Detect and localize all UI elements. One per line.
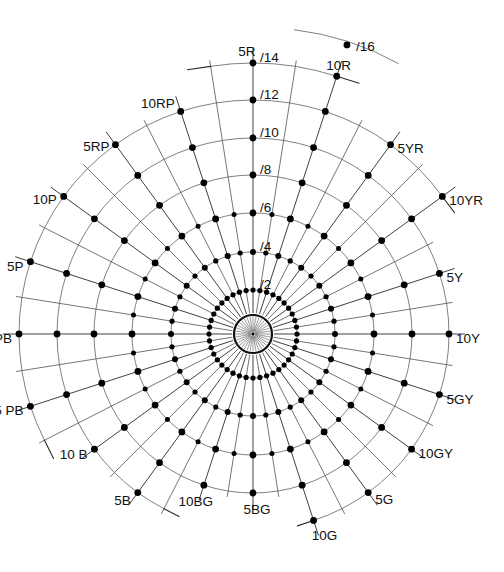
hue-label: 5 PB [0, 403, 23, 418]
chroma-dot [343, 202, 350, 209]
hue-labels-layer: 5R10R5YR10YR5Y10Y5GY10GY5G10G5BG10BG5B10… [0, 44, 483, 543]
chroma-dot [134, 172, 141, 179]
chroma-dot [436, 270, 443, 277]
chroma-arc-segment [211, 63, 253, 66]
hue-label: 10YR [449, 193, 483, 208]
chroma-dot [331, 319, 336, 324]
chroma-dot [365, 293, 372, 300]
chroma-dot [286, 306, 291, 311]
chroma-dot [276, 367, 281, 372]
hue-label: 5GY [446, 392, 473, 407]
chroma-dot [298, 397, 304, 403]
chroma-dot [316, 379, 322, 385]
chroma-dot [275, 409, 281, 415]
chroma-dot [225, 296, 230, 301]
chroma-dot [358, 386, 363, 391]
chroma-label: /6 [260, 200, 271, 215]
chroma-label: /12 [260, 87, 279, 102]
chroma-dot [184, 379, 190, 385]
chroma-arc-segment [19, 334, 22, 371]
chroma-dot [54, 331, 61, 338]
chroma-arc-segment [94, 309, 96, 334]
chroma-arc-segment [138, 493, 164, 509]
hue-spoke [176, 96, 247, 314]
chroma-arc-segment [428, 245, 440, 273]
chroma-arc-segment [395, 262, 405, 285]
chroma-arc-segment [365, 222, 381, 241]
chroma-arc-segment [141, 446, 160, 462]
chroma-dot [401, 380, 408, 387]
arc-end-stub [187, 66, 210, 69]
hue-spoke [16, 296, 232, 330]
chroma-arc-segment [78, 219, 94, 245]
chroma-arc-segment [342, 493, 368, 509]
hue-label: 10RP [141, 96, 175, 111]
hue-label: 5Y [446, 270, 463, 285]
chroma-arc-segment [181, 476, 204, 486]
chroma-dot [206, 331, 211, 336]
chroma-arc-segment [30, 228, 44, 262]
chroma-dot [294, 338, 299, 343]
chroma-dot [436, 391, 443, 398]
chroma-dot [207, 325, 212, 330]
chroma-dot [230, 371, 235, 376]
chroma-dot [365, 172, 372, 179]
chroma-dot [292, 318, 297, 323]
chroma-dot [209, 345, 214, 350]
chroma-arc-segment [346, 446, 365, 462]
chroma-dot [213, 258, 218, 263]
hue-label: 10 B [60, 447, 88, 462]
chroma-dot [211, 351, 216, 356]
chroma-dot [169, 344, 174, 349]
hue-spoke [106, 132, 241, 317]
chroma-dot [328, 356, 334, 362]
chroma-dot [209, 318, 214, 323]
chroma-dot [332, 331, 338, 337]
arc-end-stub [337, 76, 359, 83]
hue-spoke [270, 346, 425, 458]
chroma-arc-segment [124, 427, 140, 446]
chroma-arc-segment [164, 148, 192, 160]
hue-spoke [274, 337, 453, 365]
chroma-arc-segment [111, 241, 124, 262]
chroma-dot [343, 459, 350, 466]
chroma-arc-segment [94, 334, 96, 359]
chroma-arc-segment [278, 485, 302, 491]
chroma-dot [401, 281, 408, 288]
chroma-arc-segment [392, 195, 412, 218]
chroma-arc-segment [57, 303, 59, 334]
arc-end-stub [164, 509, 179, 517]
chroma-dot [225, 367, 230, 372]
chroma-arc-segment [192, 140, 222, 147]
chroma-dot [250, 172, 257, 179]
chroma-dot [184, 283, 190, 289]
chroma-dot [16, 331, 23, 338]
arc-end-stub [45, 440, 54, 458]
chroma-dot [292, 345, 297, 350]
hue-spoke [265, 132, 400, 317]
chroma-dot [91, 215, 98, 222]
chroma-arc-segment [96, 359, 102, 383]
chroma-dot [238, 250, 243, 255]
chroma-dot [131, 350, 136, 355]
chroma-dot [250, 287, 255, 292]
chroma-dot [257, 375, 262, 380]
chroma-arc-segment [368, 175, 391, 195]
chroma-dot [287, 216, 294, 223]
hue-spoke [268, 164, 423, 319]
chroma-dot [250, 375, 255, 380]
chroma-dot [131, 313, 136, 318]
chroma-dot [250, 452, 257, 459]
chroma-dot [336, 246, 341, 251]
chroma-arc-segment [102, 262, 112, 285]
chroma-dot [91, 331, 98, 338]
chroma-arc-segment [439, 365, 446, 395]
hue-spoke [274, 302, 453, 330]
chroma-dot [196, 224, 201, 229]
chroma-arc-segment [382, 406, 395, 427]
chroma-dot [143, 277, 148, 282]
center-dot [251, 332, 254, 335]
chroma-arc-segment [57, 334, 59, 365]
chroma-dot [263, 412, 268, 417]
chroma-dot [316, 283, 322, 289]
